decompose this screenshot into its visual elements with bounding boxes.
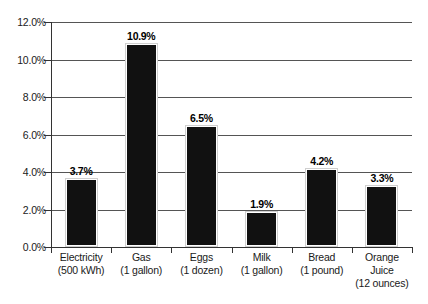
category-label-line: (1 gallon) <box>232 264 292 277</box>
y-axis-tick-label: 2.0% <box>2 205 46 215</box>
category-label-line: Gas <box>111 251 171 264</box>
bar-value-label: 10.9% <box>127 31 155 42</box>
y-axis-tick-labels: 0.0%2.0%4.0%6.0%8.0%10.0%12.0% <box>0 0 46 304</box>
bar-group[interactable]: 1.9% <box>232 199 292 247</box>
y-axis-tickmark <box>44 210 52 211</box>
y-axis-tickmark <box>44 172 52 173</box>
y-axis-tick-label: 0.0% <box>2 242 46 252</box>
category-label-line: (1 gallon) <box>111 264 171 277</box>
category-label-line: (1 pound) <box>292 264 352 277</box>
bar[interactable] <box>125 43 158 247</box>
y-axis-tick-label: 6.0% <box>2 130 46 140</box>
category-label-line: Orange <box>352 251 412 264</box>
x-axis-tickmark <box>51 248 52 253</box>
category-label-line: (500 kWh) <box>51 264 111 277</box>
x-axis-tickmark <box>352 248 353 253</box>
x-axis-tickmark <box>292 248 293 253</box>
y-axis-tickmark <box>44 22 52 23</box>
gridline <box>51 135 412 136</box>
bar-fill <box>307 170 336 245</box>
bar-value-label: 3.7% <box>70 166 93 177</box>
category-label-line: Eggs <box>171 251 231 264</box>
category-label-line: Juice <box>352 264 412 277</box>
bar[interactable] <box>65 178 98 247</box>
x-axis-tickmark <box>111 248 112 253</box>
x-axis-category-label: Eggs(1 dozen) <box>171 251 231 277</box>
bar-group[interactable]: 6.5% <box>171 113 231 247</box>
bar-value-label: 6.5% <box>190 113 213 124</box>
bar-group[interactable]: 10.9% <box>111 31 171 247</box>
x-axis-category-label: OrangeJuice(12 ounces) <box>352 251 412 290</box>
x-axis-category-label: Electricity(500 kWh) <box>51 251 111 277</box>
x-axis-category-label: Bread(1 pound) <box>292 251 352 277</box>
y-axis-tick-label: 10.0% <box>2 55 46 65</box>
y-axis-tickmark <box>44 135 52 136</box>
bar-group[interactable]: 3.3% <box>352 173 412 247</box>
category-label-line: Milk <box>232 251 292 264</box>
bar[interactable] <box>305 168 338 247</box>
bar-fill <box>367 187 396 245</box>
bar-value-label: 4.2% <box>310 156 333 167</box>
y-axis-tickmark <box>44 97 52 98</box>
bar-fill <box>187 127 216 245</box>
bar-fill <box>127 45 156 245</box>
bar[interactable] <box>245 211 278 247</box>
bar-fill <box>247 213 276 245</box>
x-axis-tickmark <box>232 248 233 253</box>
category-label-line: Bread <box>292 251 352 264</box>
plot-area: 3.7%10.9%6.5%1.9%4.2%3.3% <box>51 22 412 247</box>
bar-group[interactable]: 4.2% <box>292 156 352 247</box>
bar-value-label: 3.3% <box>371 173 394 184</box>
bar[interactable] <box>365 185 398 247</box>
x-axis-category-label: Milk(1 gallon) <box>232 251 292 277</box>
x-axis-tickmark <box>171 248 172 253</box>
y-axis-tick-label: 12.0% <box>2 17 46 27</box>
y-axis-tickmark <box>44 60 52 61</box>
x-axis-category-label: Gas(1 gallon) <box>111 251 171 277</box>
category-label-line: (12 ounces) <box>352 277 412 290</box>
category-label-line: (1 dozen) <box>171 264 231 277</box>
bar-value-label: 1.9% <box>250 199 273 210</box>
bar-fill <box>67 180 96 245</box>
bar-chart: 0.0%2.0%4.0%6.0%8.0%10.0%12.0% 3.7%10.9%… <box>0 0 428 304</box>
gridline <box>51 60 412 61</box>
y-axis-tick-label: 8.0% <box>2 92 46 102</box>
y-axis-tick-label: 4.0% <box>2 167 46 177</box>
category-label-line: Electricity <box>51 251 111 264</box>
x-axis-tickmark <box>412 248 413 253</box>
gridline <box>51 97 412 98</box>
gridline <box>51 22 412 23</box>
x-axis-category-labels: Electricity(500 kWh)Gas(1 gallon)Eggs(1 … <box>51 251 412 304</box>
bar[interactable] <box>185 125 218 247</box>
bar-group[interactable]: 3.7% <box>51 166 111 247</box>
